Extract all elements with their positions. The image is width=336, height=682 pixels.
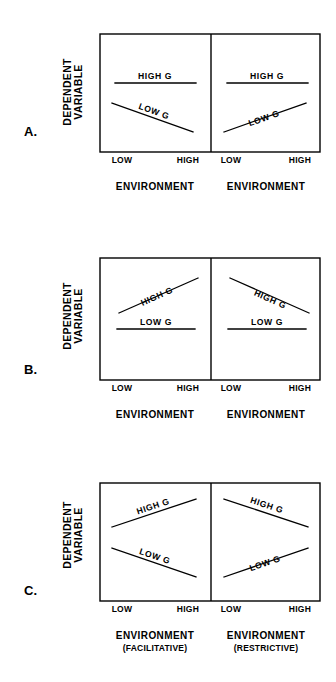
plot-frame [100, 34, 320, 152]
x-axis-label: ENVIRONMENT [116, 630, 194, 641]
x-tick-high: HIGH [177, 155, 199, 165]
x-tick-low: LOW [221, 383, 242, 393]
y-axis-label-line2: VARIABLE [72, 507, 84, 562]
x-tick-low: LOW [112, 604, 133, 614]
x-axis-label: ENVIRONMENT [116, 181, 194, 192]
panel-letter: A. [24, 124, 37, 139]
x-axis-label: ENVIRONMENT [227, 409, 305, 420]
x-tick-low: LOW [112, 383, 133, 393]
series-label-high: HIGH G [250, 71, 284, 81]
series-label-low: LOW G [251, 317, 283, 327]
figure-root: A.DEPENDENTVARIABLEHIGH GLOW GLOWHIGHENV… [0, 0, 336, 682]
series-label-low: LOW G [140, 317, 172, 327]
x-tick-high: HIGH [177, 383, 199, 393]
y-axis-label-line2: VARIABLE [72, 288, 84, 343]
x-tick-low: LOW [112, 155, 133, 165]
x-tick-low: LOW [221, 155, 242, 165]
panel-letter: B. [24, 362, 37, 377]
x-axis-label: ENVIRONMENT [227, 181, 305, 192]
panel-letter: C. [24, 583, 37, 598]
x-axis-sublabel: (FACILITATIVE) [123, 643, 187, 653]
x-axis-label: ENVIRONMENT [227, 630, 305, 641]
plot-frame [100, 483, 320, 601]
reaction-norm-figure: A.DEPENDENTVARIABLEHIGH GLOW GLOWHIGHENV… [0, 0, 336, 682]
x-axis-label: ENVIRONMENT [116, 409, 194, 420]
x-axis-sublabel: (RESTRICTIVE) [234, 643, 298, 653]
x-tick-high: HIGH [289, 604, 311, 614]
series-label-high: HIGH G [138, 71, 172, 81]
x-tick-high: HIGH [289, 155, 311, 165]
x-tick-low: LOW [221, 604, 242, 614]
x-tick-high: HIGH [289, 383, 311, 393]
y-axis-label: DEPENDENTVARIABLE [61, 501, 84, 569]
y-axis-label: DEPENDENTVARIABLE [61, 282, 84, 350]
x-tick-high: HIGH [177, 604, 199, 614]
y-axis-label: DEPENDENTVARIABLE [61, 58, 84, 126]
y-axis-label-line2: VARIABLE [72, 64, 84, 119]
plot-frame [100, 258, 320, 380]
